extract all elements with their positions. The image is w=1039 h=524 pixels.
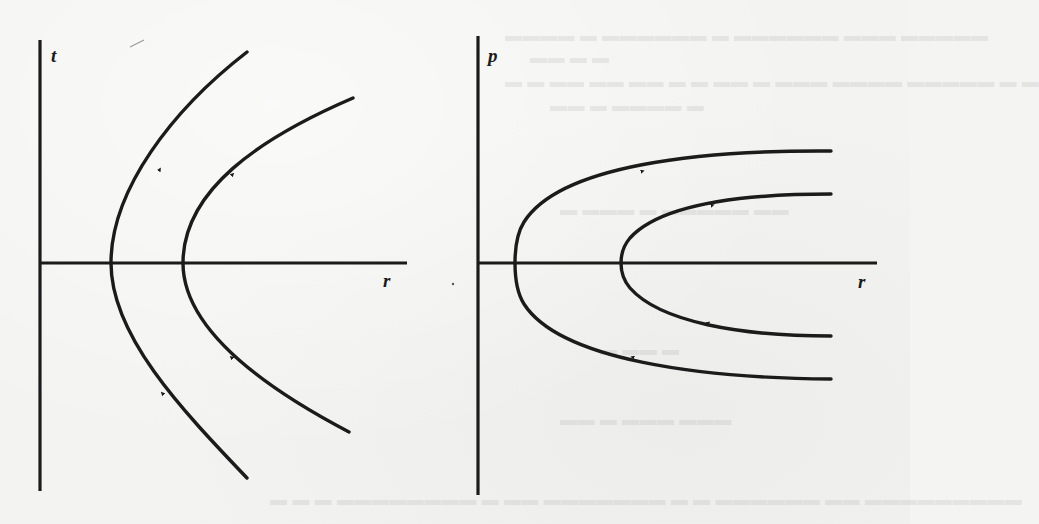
r-axis-label: r: [858, 271, 866, 292]
p-axis-label: p: [486, 45, 498, 66]
r-axis-label: r: [383, 270, 391, 291]
trajectory-curve: [111, 52, 247, 478]
left-panel: t r: [40, 40, 407, 491]
trajectory-curve: [183, 98, 353, 432]
trajectory-curve: [515, 151, 831, 379]
arrow-icon: [154, 169, 160, 179]
scan-speck: [452, 283, 454, 285]
arrow-icon: [162, 393, 170, 401]
scan-speck: [130, 40, 144, 47]
arrow-icon: [630, 171, 643, 175]
t-axis-label: t: [51, 45, 57, 66]
right-panel: p r: [478, 36, 877, 495]
trajectory-curve: [621, 194, 831, 336]
